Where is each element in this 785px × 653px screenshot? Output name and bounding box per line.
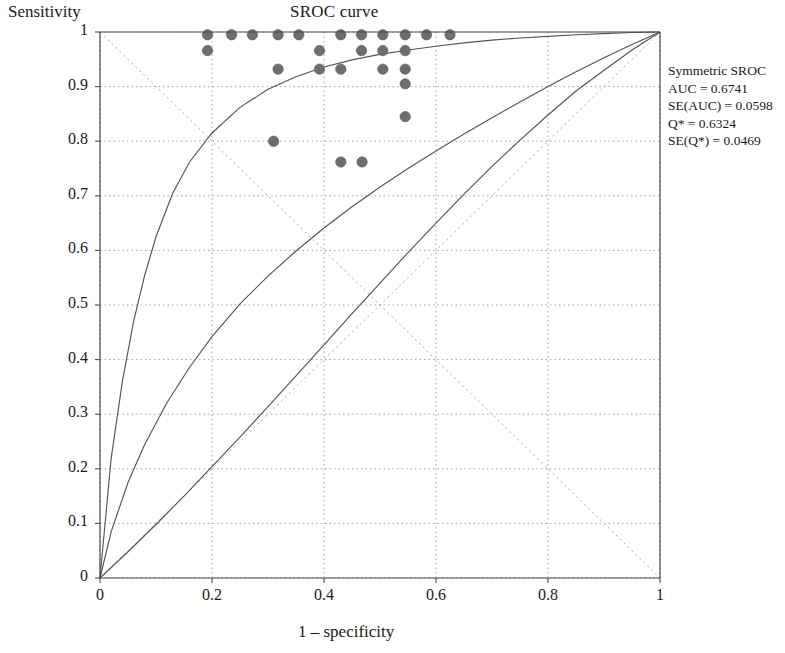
- y-tick-label: 0.5: [26, 294, 88, 312]
- y-tick-label: 0.3: [26, 403, 88, 421]
- study-point: [202, 45, 212, 55]
- study-point: [378, 30, 388, 40]
- plot-svg: [100, 32, 660, 578]
- x-tick-label: 0.6: [406, 586, 466, 604]
- study-point: [378, 45, 388, 55]
- legend-se-auc: SE(AUC) = 0.0598: [668, 97, 773, 115]
- x-tick-label: 0: [70, 586, 130, 604]
- chart-title: SROC curve: [290, 2, 378, 22]
- y-tick-label: 0.2: [26, 458, 88, 476]
- y-tick-label: 0.7: [26, 185, 88, 203]
- y-tick-label: 0.1: [26, 512, 88, 530]
- study-point: [400, 111, 410, 121]
- study-point: [273, 30, 283, 40]
- y-tick-label: 1: [26, 21, 88, 39]
- study-point: [400, 79, 410, 89]
- study-point: [378, 64, 388, 74]
- x-tick-label: 0.8: [518, 586, 578, 604]
- study-point: [421, 30, 431, 40]
- x-axis-label: 1 – specificity: [298, 622, 394, 642]
- study-point: [336, 64, 346, 74]
- study-point: [356, 45, 366, 55]
- x-tick-label: 0.2: [182, 586, 242, 604]
- legend-se-qstar: SE(Q*) = 0.0469: [668, 132, 773, 150]
- y-tick-label: 0.9: [26, 76, 88, 94]
- study-point: [247, 30, 257, 40]
- study-point: [400, 64, 410, 74]
- study-point: [357, 157, 367, 167]
- study-point: [202, 30, 212, 40]
- plot-area: [100, 32, 660, 578]
- study-point: [400, 30, 410, 40]
- study-point: [314, 64, 324, 74]
- study-point: [336, 30, 346, 40]
- sroc-chart-figure: Sensitivity SROC curve 00.10.20.30.40.50…: [0, 0, 785, 653]
- y-tick-label: 0.4: [26, 349, 88, 367]
- legend-qstar: Q* = 0.6324: [668, 115, 773, 133]
- study-point: [294, 30, 304, 40]
- study-point: [400, 45, 410, 55]
- study-point: [314, 45, 324, 55]
- study-points: [202, 30, 455, 168]
- y-tick-label: 0.6: [26, 239, 88, 257]
- study-point: [273, 64, 283, 74]
- legend-title: Symmetric SROC: [668, 62, 773, 80]
- legend-auc: AUC = 0.6741: [668, 80, 773, 98]
- study-point: [336, 157, 346, 167]
- study-point: [356, 30, 366, 40]
- y-tick-label: 0.8: [26, 130, 88, 148]
- x-tick-label: 0.4: [294, 586, 354, 604]
- study-point: [268, 136, 278, 146]
- x-tick-label: 1: [630, 586, 690, 604]
- study-point: [226, 30, 236, 40]
- y-tick-label: 0: [26, 567, 88, 585]
- y-axis-label: Sensitivity: [8, 2, 81, 22]
- statistics-legend: Symmetric SROC AUC = 0.6741 SE(AUC) = 0.…: [668, 62, 773, 150]
- study-point: [445, 30, 455, 40]
